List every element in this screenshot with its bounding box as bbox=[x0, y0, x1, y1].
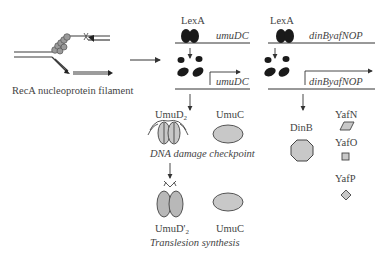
yafN-protein-icon bbox=[340, 122, 354, 130]
lexA-cleaved-right-icon bbox=[263, 56, 291, 79]
dinB-label: DinB bbox=[290, 123, 313, 134]
lexA-dimer-bound-left-icon bbox=[181, 29, 199, 43]
dinB-label-repressed: dinByafNOP bbox=[309, 31, 363, 42]
umuC-protein-tls-icon bbox=[213, 193, 243, 211]
umuD-prime2-label: UmuD'2 bbox=[155, 224, 189, 236]
recA-monomers-icon bbox=[52, 34, 71, 54]
umuD2-label: UmuD2 bbox=[155, 110, 187, 122]
yafO-label: YafO bbox=[335, 138, 357, 149]
recA-arrows-icon bbox=[64, 35, 113, 76]
umuD-prime2-dimer-icon bbox=[157, 181, 183, 217]
umuD2-dimer-icon bbox=[148, 120, 188, 144]
umuC-tls-label: UmuC bbox=[216, 224, 244, 235]
lexA-label-left: LexA bbox=[181, 16, 205, 27]
checkpoint-caption: DNA damage checkpoint bbox=[150, 149, 255, 160]
yafO-protein-icon bbox=[342, 153, 349, 160]
umuDC-label-active: umuDC bbox=[216, 77, 249, 88]
lexA-dimer-bound-right-icon bbox=[276, 29, 294, 43]
lexA-label-right: LexA bbox=[270, 16, 294, 27]
yafP-label: YafP bbox=[335, 174, 356, 185]
tls-caption: Translesion synthesis bbox=[150, 238, 240, 249]
umuC-protein-icon bbox=[213, 125, 243, 143]
yafP-protein-icon bbox=[341, 190, 351, 200]
recA-label: RecA nucleoprotein filament bbox=[12, 86, 133, 97]
dinB-label-active: dinByafNOP bbox=[309, 77, 363, 88]
lexA-cleaved-left-icon bbox=[176, 56, 205, 79]
yafN-label: YafN bbox=[335, 110, 357, 121]
umuC-label: UmuC bbox=[216, 110, 244, 121]
dinB-protein-icon bbox=[291, 140, 313, 161]
umuDC-label-repressed: umuDC bbox=[216, 31, 249, 42]
